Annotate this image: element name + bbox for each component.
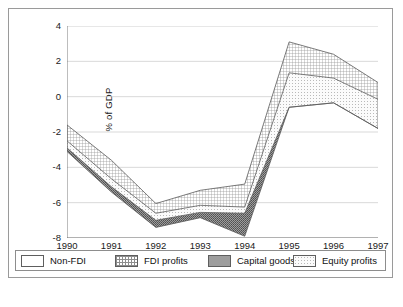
legend-item-non-fdi[interactable]: Non-FDI [21, 254, 86, 268]
y-tick-label-2: 2 [37, 56, 61, 66]
y-tick-label--2: -2 [37, 127, 61, 137]
legend-swatch-dark-dense-dots [208, 255, 231, 267]
y-tick-label-0: 0 [37, 92, 61, 102]
y-axis-tick-labels: 420-2-4-6-8 [37, 26, 67, 238]
y-tick-label--4: -4 [37, 162, 61, 172]
plot-area: 420-2-4-6-8 % of GDP [67, 26, 378, 238]
area-chart-svg [67, 26, 378, 238]
chart-legend: Non-FDIFDI profitsCapital goodsEquity pr… [15, 250, 386, 271]
figure-container: 420-2-4-6-8 % of GDP [0, 0, 403, 307]
y-tick-label-4: 4 [37, 21, 61, 31]
legend-item-equity-profits[interactable]: Equity profits [293, 254, 377, 268]
legend-label: Equity profits [322, 256, 377, 266]
chart-frame: 420-2-4-6-8 % of GDP [8, 8, 393, 278]
legend-item-fdi-profits[interactable]: FDI profits [115, 254, 188, 268]
legend-label: Non-FDI [50, 256, 86, 266]
y-tick-label--6: -6 [37, 198, 61, 208]
legend-item-capital-goods[interactable]: Capital goods [208, 254, 295, 268]
legend-label: FDI profits [144, 256, 188, 266]
legend-swatch-solid-white [21, 255, 44, 267]
stacked-area-bands [67, 42, 378, 236]
legend-label: Capital goods [237, 256, 295, 266]
legend-swatch-fine-cross-hatch [115, 255, 138, 267]
legend-swatch-light-dotted [293, 255, 316, 267]
